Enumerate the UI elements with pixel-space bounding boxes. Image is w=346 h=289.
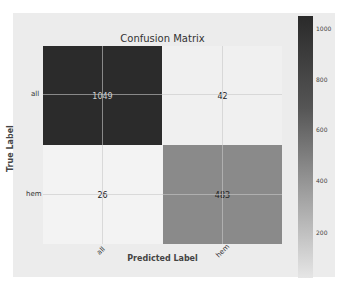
chart-title: Confusion Matrix <box>43 33 282 44</box>
ytick-hem: hem <box>26 190 42 198</box>
colorbar-tick: 600 <box>316 126 327 133</box>
colorbar <box>298 16 313 278</box>
heatmap-plot: 1049 42 26 483 <box>43 46 282 244</box>
colorbar-tick: 400 <box>316 177 327 184</box>
gridline <box>222 46 223 244</box>
gridline <box>102 46 103 244</box>
gridline <box>43 94 282 95</box>
gridline <box>43 194 282 195</box>
y-axis-label: True Label <box>6 125 15 172</box>
x-axis-label: Predicted Label <box>43 254 282 263</box>
colorbar-tick: 800 <box>316 76 327 83</box>
colorbar-tick: 200 <box>316 229 327 236</box>
colorbar-tick: 1000 <box>316 25 331 32</box>
ytick-all: all <box>31 90 39 98</box>
